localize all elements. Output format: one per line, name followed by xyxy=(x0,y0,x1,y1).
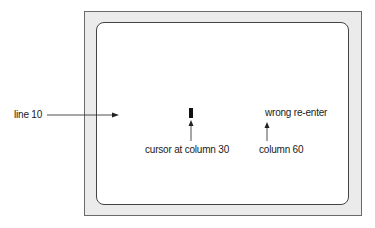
line-arrow xyxy=(47,113,119,118)
column-arrow xyxy=(265,122,270,141)
cursor-label: cursor at column 30 xyxy=(145,144,229,156)
line-label: line 10 xyxy=(14,109,42,121)
error-message-text: wrong re-enter xyxy=(265,107,327,119)
cursor-arrow xyxy=(189,120,194,141)
column-label: column 60 xyxy=(259,144,303,156)
